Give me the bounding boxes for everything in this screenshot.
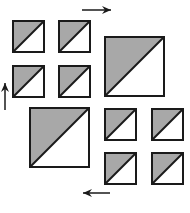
quilt-diagram [0, 0, 190, 213]
half-square-triangle-tl-2 [59, 21, 90, 52]
half-square-triangle-br-3 [105, 153, 136, 184]
half-square-triangle-br-4 [152, 153, 183, 184]
half-square-triangle-br-1 [105, 109, 136, 140]
arrow-left-icon [83, 189, 110, 197]
arrow-up-icon [1, 83, 9, 110]
half-square-triangle-units [13, 21, 183, 184]
half-square-triangle-tl-4 [59, 66, 90, 97]
half-square-triangle-tl-3 [13, 66, 44, 97]
half-square-triangle-tr-big [105, 37, 164, 96]
half-square-triangle-tl-1 [13, 21, 44, 52]
half-square-triangle-br-2 [152, 109, 183, 140]
arrow-right-icon [82, 6, 111, 14]
half-square-triangle-bl-big [30, 108, 89, 167]
